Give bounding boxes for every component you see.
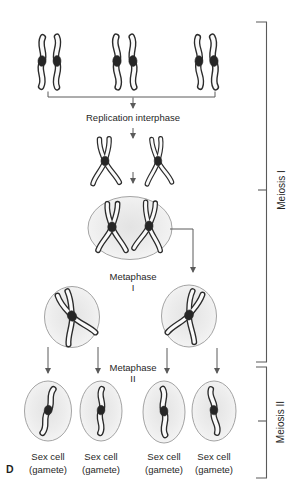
metaphase2-numeral: II — [103, 373, 163, 384]
gamete-label-4: Sex cell (gamete) — [182, 451, 246, 476]
metaphase1-numeral: I — [103, 282, 163, 293]
replication-interphase-label: Replication interphase — [73, 112, 193, 123]
bracket-meiosis-1 — [256, 22, 267, 362]
replicated-chromosomes — [91, 138, 172, 184]
meiosis-diagram: Replication interphase Metaphase I Metap… — [0, 0, 302, 502]
top-grouping-bracket — [48, 92, 215, 98]
panel-letter: D — [6, 463, 14, 475]
gamete-4-line1: Sex cell — [197, 451, 230, 462]
metaphase1-cell-right — [162, 285, 217, 347]
gamete-3-line2: (gamete) — [145, 464, 183, 475]
gamete-cell-1 — [25, 381, 72, 441]
metaphase1-label: Metaphase I — [103, 271, 163, 293]
gamete-2-line2: (gamete) — [82, 464, 120, 475]
metaphase1-cell-left — [45, 287, 100, 348]
gamete-cell-4 — [192, 381, 236, 441]
prophase-cell — [88, 197, 172, 260]
gamete-2-line1: Sex cell — [84, 451, 117, 462]
gamete-label-2: Sex cell (gamete) — [69, 451, 133, 476]
gamete-1-line1: Sex cell — [31, 451, 64, 462]
chromosome-pair-2 — [112, 37, 138, 87]
arrow-to-metaphase1-right — [170, 229, 193, 272]
gamete-cell-2 — [80, 381, 122, 441]
chromosome-pair-1 — [37, 37, 61, 87]
gamete-3-line1: Sex cell — [147, 451, 180, 462]
metaphase2-word: Metaphase — [103, 362, 163, 373]
metaphase2-label: Metaphase II — [103, 362, 163, 384]
gamete-4-line2: (gamete) — [195, 464, 233, 475]
meiosis2-bracket-label: Meiosis II — [274, 387, 288, 457]
gamete-cell-3 — [143, 381, 185, 443]
diagram-artwork — [0, 0, 302, 502]
bracket-meiosis-2 — [256, 367, 267, 478]
chromosome-pair-3 — [194, 37, 220, 87]
gamete-1-line2: (gamete) — [29, 464, 67, 475]
metaphase1-word: Metaphase — [103, 271, 163, 282]
meiosis1-bracket-label: Meiosis I — [275, 155, 289, 225]
